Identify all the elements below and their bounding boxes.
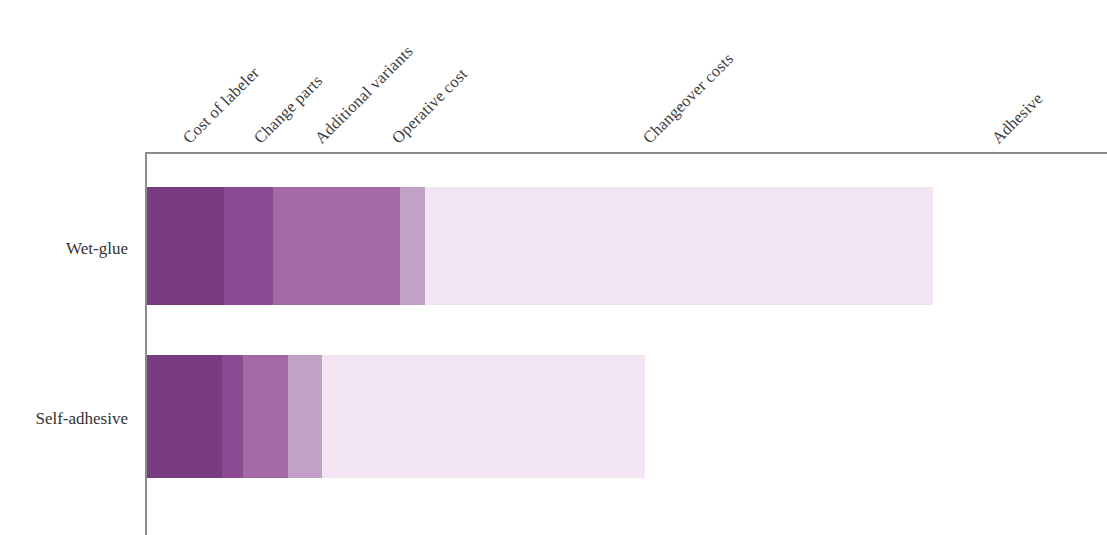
bar-segment <box>224 187 273 305</box>
stacked-bar-chart: Cost of labelerChange partsAdditional va… <box>0 0 1107 535</box>
row-label: Self-adhesive <box>0 409 128 429</box>
stacked-bar <box>147 187 933 305</box>
bar-segment <box>243 355 288 478</box>
bar-segment <box>147 187 224 305</box>
bar-segment <box>147 355 222 478</box>
bar-segment <box>273 187 400 305</box>
bar-segment <box>425 187 933 305</box>
stacked-bar <box>147 355 645 478</box>
category-label: Changeover costs <box>639 49 738 148</box>
category-label: Operative cost <box>388 64 472 148</box>
bar-segment <box>288 355 322 478</box>
bar-segment <box>222 355 243 478</box>
bar-segment <box>322 355 645 478</box>
bar-segment <box>400 187 425 305</box>
row-label: Wet-glue <box>0 239 128 259</box>
top-axis-line <box>145 152 1107 154</box>
category-label: Adhesive <box>988 89 1047 148</box>
